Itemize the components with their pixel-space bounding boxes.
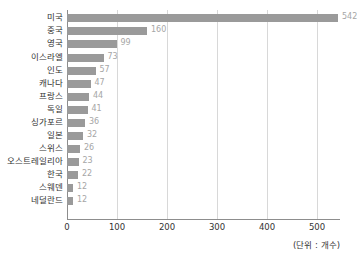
bar-row: 41 <box>67 104 340 117</box>
bar <box>67 106 88 114</box>
plot-area: 54216099735747444136322623221212 <box>67 10 340 219</box>
bar <box>67 145 80 153</box>
category-label: 오스트레일리아 <box>7 155 63 168</box>
bar-value-label: 47 <box>95 76 105 89</box>
bar-row: 542 <box>67 12 340 25</box>
category-label: 한국 <box>47 168 63 181</box>
bar <box>67 67 96 75</box>
bar-row: 22 <box>67 169 340 182</box>
x-tick-label: 400 <box>259 222 275 232</box>
category-label: 싱가포르 <box>31 116 63 129</box>
bar-row: 44 <box>67 91 340 104</box>
x-tick-label: 100 <box>109 222 125 232</box>
bar <box>67 27 147 35</box>
bar-row: 36 <box>67 117 340 130</box>
bar-value-label: 73 <box>108 50 118 63</box>
bar-value-label: 23 <box>83 154 93 167</box>
bar <box>67 184 73 192</box>
bar-rows: 54216099735747444136322623221212 <box>67 10 340 219</box>
x-axis-line <box>67 219 340 220</box>
bar-value-label: 160 <box>151 23 166 36</box>
bar <box>67 93 89 101</box>
bar-value-label: 542 <box>342 10 357 23</box>
bar-value-label: 32 <box>87 128 97 141</box>
bar-value-label: 44 <box>93 89 103 102</box>
category-label: 인도 <box>47 64 63 77</box>
bar-value-label: 12 <box>77 193 87 206</box>
category-label: 중국 <box>47 24 63 37</box>
bar-value-label: 12 <box>77 180 87 193</box>
bar-row: 160 <box>67 25 340 38</box>
bar <box>67 171 78 179</box>
category-label: 스위스 <box>39 142 63 155</box>
bar-row: 12 <box>67 182 340 195</box>
bar <box>67 158 79 166</box>
bar-value-label: 41 <box>92 102 102 115</box>
category-label: 네덜란드 <box>31 194 63 207</box>
category-axis-labels: 미국중국영국이스라엘인도캐나다프랑스독일싱가포르일본스위스오스트레일리아한국스웨… <box>0 10 63 219</box>
category-label: 스웨덴 <box>39 181 63 194</box>
category-label: 캐나다 <box>39 77 63 90</box>
bar <box>67 132 83 140</box>
bar-row: 57 <box>67 65 340 78</box>
category-label: 일본 <box>47 129 63 142</box>
bar <box>67 40 117 48</box>
x-tick-label: 500 <box>309 222 325 232</box>
bar-value-label: 26 <box>84 141 94 154</box>
bar <box>67 119 85 127</box>
bar-row: 32 <box>67 130 340 143</box>
bar-value-label: 36 <box>89 115 99 128</box>
bar-value-label: 99 <box>121 36 131 49</box>
bar-value-label: 57 <box>100 63 110 76</box>
x-tick-label: 0 <box>64 222 69 232</box>
bar <box>67 197 73 205</box>
bar <box>67 80 91 88</box>
bar-row: 23 <box>67 156 340 169</box>
category-label: 프랑스 <box>39 90 63 103</box>
bar-row: 26 <box>67 143 340 156</box>
x-tick-label: 300 <box>209 222 225 232</box>
category-label: 독일 <box>47 103 63 116</box>
category-label: 이스라엘 <box>31 51 63 64</box>
bar <box>67 54 104 62</box>
bar-value-label: 22 <box>82 167 92 180</box>
category-label: 미국 <box>47 11 63 24</box>
bar-row: 12 <box>67 195 340 208</box>
unit-note: (단위 : 개수) <box>293 238 340 250</box>
category-label: 영국 <box>47 37 63 50</box>
x-tick-label: 200 <box>159 222 175 232</box>
bar <box>67 14 338 22</box>
bar-row: 47 <box>67 78 340 91</box>
